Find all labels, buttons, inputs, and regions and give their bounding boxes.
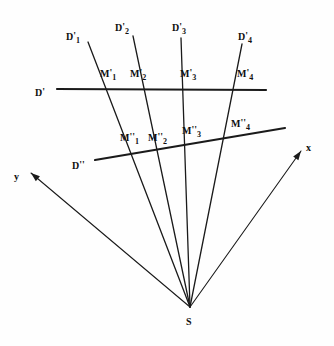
ray-1-m-double-prime-label: M''1 [120, 128, 139, 146]
geometry-figure: D'D''D'1M'1M''1D'2M'2M''2D'3M'3M''3D'4M'… [0, 0, 334, 346]
axis-group [31, 151, 301, 307]
ray-4-m-double-prime-label: M''4 [231, 114, 250, 132]
diagram-canvas [0, 0, 334, 346]
transversal-group [57, 89, 285, 160]
ray-1-m-prime-label: M'1 [100, 64, 116, 82]
ray-3-label: D'3 [172, 18, 186, 36]
ray-2-m-prime-label: M'2 [130, 64, 146, 82]
x-axis-arrowhead [293, 151, 301, 160]
line-d-double-prime-label: D'' [72, 156, 85, 172]
ray-4-label: D'4 [238, 27, 252, 45]
ray-3-m-prime-label: M'3 [180, 64, 196, 82]
ray-3-m-double-prime-label: M''3 [182, 121, 201, 139]
ray-2-label: D'2 [115, 18, 129, 36]
ray-4-line [190, 44, 242, 307]
line-d-prime-label: D' [35, 83, 45, 99]
y-axis-label: y [14, 167, 19, 183]
ray-1-label: D'1 [66, 27, 80, 45]
x-axis-label: x [306, 138, 311, 154]
x-axis-line [190, 151, 301, 307]
ray-2-m-double-prime-label: M''2 [148, 128, 167, 146]
line-d-prime [57, 89, 266, 90]
center-point-label: S [186, 312, 192, 328]
ray-4-m-prime-label: M'4 [237, 64, 253, 82]
